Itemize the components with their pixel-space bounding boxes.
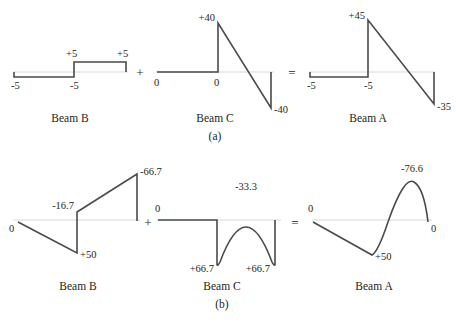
operator-equals-row-b: = [291,215,298,230]
panel-caption-beam-a: Beam A [355,280,393,292]
beam-c-moment-curve [158,220,275,265]
subcaption-row-a: (a) [209,130,222,143]
step-negative-value-label: -16.7 [52,200,74,211]
beam-b-moment-curve [14,62,126,77]
panel-a-beam-c: 0 0 +40 -40 Beam C [154,12,288,124]
right-positive-value-label: +66.7 [246,263,270,274]
row-b: 0 +50 -16.7 -66.7 Beam B + 0 +66.7 -33.3… [9,163,436,311]
operator-equals-row-a: = [288,65,295,80]
row-a: -5 -5 +5 +5 Beam B + 0 0 +40 -40 Beam C … [11,10,451,143]
panel-caption-beam-c: Beam C [203,280,241,292]
arc-peak-value-label: -33.3 [235,181,257,192]
end-negative-value-label: -40 [274,104,288,115]
step-positive-value-label: +5 [66,48,77,59]
end-negative-value-label: -66.7 [140,166,162,177]
panel-a-beam-b: -5 -5 +5 +5 Beam B [11,48,128,124]
mid-zero-value-label: 0 [214,77,219,88]
beam-a-moment-curve [313,181,428,255]
panel-caption-beam-c: Beam C [196,112,234,124]
mid-positive-value-label: +50 [375,251,391,262]
end-negative-value-label: -35 [437,101,451,112]
peak-positive-value-label: +45 [349,10,365,21]
beam-c-moment-curve [157,23,271,108]
operator-plus-row-b: + [144,215,151,230]
beam-diagram-figure: -5 -5 +5 +5 Beam B + 0 0 +40 -40 Beam C … [0,0,456,326]
step-negative-value-label: -5 [70,80,79,91]
peak-positive-value-label: +40 [199,12,215,23]
start-zero-value-label: 0 [308,203,313,214]
panel-caption-beam-b: Beam B [51,112,89,124]
panel-b-beam-c: 0 +66.7 -33.3 +66.7 Beam C [155,181,281,292]
step-negative-value-label: -5 [364,80,373,91]
end-zero-value-label: 0 [431,223,436,234]
arc-peak-value-label: -76.6 [401,163,423,174]
beam-diagram-canvas: -5 -5 +5 +5 Beam B + 0 0 +40 -40 Beam C … [0,0,456,326]
panel-caption-beam-a: Beam A [349,112,387,124]
left-positive-value-label: +66.7 [190,263,214,274]
start-zero-value-label: 0 [9,223,14,234]
panel-b-beam-b: 0 +50 -16.7 -66.7 Beam B [9,166,162,292]
operator-plus-row-a: + [136,65,143,80]
beam-a-moment-curve [310,20,434,104]
start-zero-value-label: 0 [155,203,160,214]
panel-caption-beam-b: Beam B [59,280,97,292]
beam-b-moment-curve [18,174,137,253]
mid-positive-value-label: +50 [80,249,96,260]
panel-b-beam-a: 0 +50 -76.6 0 Beam A [308,163,436,292]
left-negative-value-label: -5 [11,80,20,91]
start-zero-value-label: 0 [154,77,159,88]
right-positive-value-label: +5 [117,48,128,59]
subcaption-row-b: (b) [215,298,229,311]
left-negative-value-label: -5 [307,80,316,91]
panel-a-beam-a: -5 -5 +45 -35 Beam A [307,10,451,124]
